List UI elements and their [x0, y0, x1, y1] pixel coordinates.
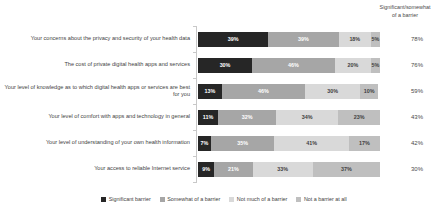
category-label: Your access to reliable Internet service — [0, 165, 196, 172]
segment-value-label: 21% — [228, 166, 239, 172]
segment-value-label: 41% — [306, 140, 317, 146]
segment-value-label: 11% — [203, 114, 214, 120]
segment-value-label: 33% — [277, 166, 288, 172]
table-row: Your level of knowledge as to which digi… — [0, 78, 448, 104]
bar-segment: 11% — [198, 110, 218, 125]
bar-segment: 18% — [339, 32, 371, 47]
bar-segment: 21% — [214, 162, 252, 177]
segment-value-label: 39% — [298, 36, 309, 42]
bar-segment: 35% — [211, 136, 275, 151]
legend-label: Not much of a barrier — [237, 196, 288, 202]
legend-label: Significant barrier — [109, 196, 151, 202]
bar-segment: 7% — [198, 136, 211, 151]
legend-label: Somewhat of a barrier — [167, 196, 220, 202]
legend-item[interactable]: Not a barrier at all — [296, 196, 346, 202]
segment-value-label: 46% — [288, 62, 299, 68]
stacked-bar: 39%39%18%5% — [198, 32, 380, 47]
summary-total-value: 76% — [386, 62, 448, 68]
segment-value-label: 23% — [354, 114, 365, 120]
legend-item[interactable]: Somewhat of a barrier — [160, 196, 221, 202]
summary-header-line2: of a barrier — [366, 12, 444, 20]
stacked-bar: 11%32%34%23% — [198, 110, 380, 125]
segment-value-label: 37% — [341, 166, 352, 172]
summary-header-line1: Significant/somewhat — [366, 4, 444, 12]
bar-segment: 23% — [338, 110, 380, 125]
summary-column-header: Significant/somewhat of a barrier — [366, 4, 444, 19]
stacked-bar: 13%46%30%10% — [198, 84, 380, 99]
bar-segment: 33% — [253, 162, 313, 177]
category-label: Your level of knowledge as to which digi… — [0, 84, 196, 99]
segment-value-label: 34% — [302, 114, 313, 120]
summary-total-value: 43% — [386, 114, 448, 120]
legend-item[interactable]: Not much of a barrier — [229, 196, 287, 202]
segment-value-label: 7% — [200, 140, 208, 146]
segment-value-label: 13% — [204, 88, 215, 94]
legend-swatch-icon — [296, 197, 301, 202]
bar-segment: 17% — [349, 136, 380, 151]
legend-swatch-icon — [229, 197, 234, 202]
stacked-bar: 7%35%41%17% — [198, 136, 380, 151]
segment-value-label: 9% — [202, 166, 210, 172]
legend-swatch-icon — [160, 197, 165, 202]
legend-label: Not a barrier at all — [304, 196, 347, 202]
bar-segment: 34% — [276, 110, 338, 125]
bar-segment: 5% — [371, 32, 380, 47]
segment-value-label: 20% — [348, 62, 359, 68]
segment-value-label: 5% — [372, 62, 380, 68]
segment-value-label: 10% — [364, 88, 375, 94]
bar-segment: 30% — [305, 84, 360, 99]
chart-legend: Significant barrierSomewhat of a barrier… — [0, 196, 448, 202]
segment-value-label: 5% — [372, 36, 380, 42]
table-row: Your level of understanding of your own … — [0, 130, 448, 156]
table-row: Your level of comfort with apps and tech… — [0, 104, 448, 130]
bar-segment: 32% — [218, 110, 276, 125]
legend-swatch-icon — [101, 197, 106, 202]
category-label: The cost of private digital health apps … — [0, 61, 196, 68]
stacked-bar: 9%21%33%37% — [198, 162, 380, 177]
segment-value-label: 35% — [237, 140, 248, 146]
summary-total-value: 78% — [386, 36, 448, 42]
segment-value-label: 32% — [242, 114, 253, 120]
stacked-bar-chart: Significant/somewhat of a barrier Your c… — [0, 0, 448, 218]
table-row: The cost of private digital health apps … — [0, 52, 448, 78]
summary-total-value: 42% — [386, 140, 448, 146]
bar-segment: 37% — [313, 162, 380, 177]
legend-item[interactable]: Significant barrier — [101, 196, 150, 202]
stacked-bar: 30%46%20%5% — [198, 58, 380, 73]
segment-value-label: 18% — [349, 36, 360, 42]
bar-segment: 39% — [268, 32, 338, 47]
segment-value-label: 17% — [359, 140, 370, 146]
summary-total-value: 30% — [386, 166, 448, 172]
bar-segment: 46% — [222, 84, 306, 99]
segment-value-label: 30% — [220, 62, 231, 68]
bar-segment: 41% — [274, 136, 349, 151]
bar-segment: 9% — [198, 162, 214, 177]
bar-segment: 30% — [198, 58, 252, 73]
table-row: Your access to reliable Internet service… — [0, 156, 448, 182]
segment-value-label: 30% — [327, 88, 338, 94]
segment-value-label: 39% — [228, 36, 239, 42]
bar-segment: 13% — [198, 84, 222, 99]
category-label: Your level of comfort with apps and tech… — [0, 113, 196, 120]
plot-area: Your concerns about the privacy and secu… — [0, 26, 448, 182]
segment-value-label: 46% — [258, 88, 269, 94]
axis-tick — [193, 182, 197, 183]
category-label: Your level of understanding of your own … — [0, 139, 196, 146]
bar-segment: 10% — [360, 84, 378, 99]
bar-segment: 39% — [198, 32, 268, 47]
bar-segment: 46% — [252, 58, 335, 73]
table-row: Your concerns about the privacy and secu… — [0, 26, 448, 52]
bar-segment: 5% — [371, 58, 380, 73]
summary-total-value: 59% — [386, 88, 448, 94]
category-label: Your concerns about the privacy and secu… — [0, 35, 196, 42]
bar-segment: 20% — [335, 58, 371, 73]
